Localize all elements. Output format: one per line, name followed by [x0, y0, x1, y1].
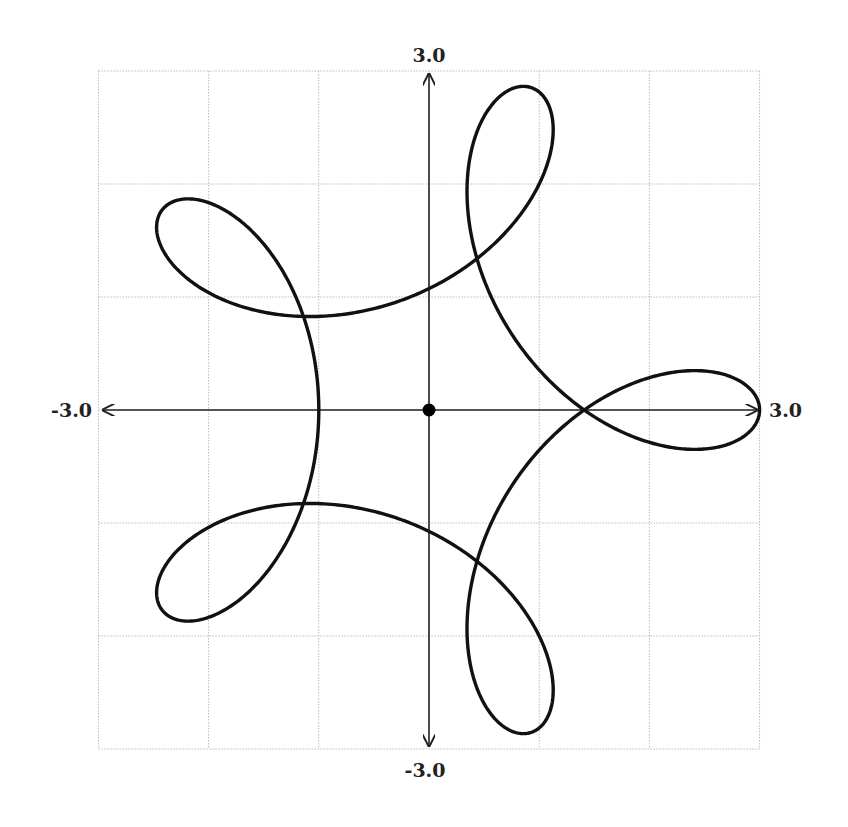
- y-min-label: -3.0: [405, 759, 446, 781]
- origin-dot: [423, 404, 436, 417]
- x-max-label: 3.0: [769, 399, 802, 421]
- y-max-label: 3.0: [412, 44, 445, 66]
- x-min-label: -3.0: [51, 399, 92, 421]
- plot-canvas: 3.0 -3.0 -3.0 3.0: [0, 0, 848, 827]
